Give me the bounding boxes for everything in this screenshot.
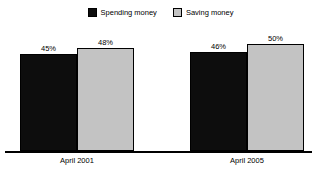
bar-value-spending-2005: 46% (190, 42, 247, 51)
bar-saving-2001 (77, 48, 134, 151)
category-label-april-2005: April 2005 (190, 156, 304, 166)
bar-spending-2005 (190, 52, 247, 151)
bar-wrap-spending-2001: 45% (20, 41, 77, 151)
bar-group-april-2005: 46% 50% (190, 41, 304, 151)
x-axis-line (5, 151, 312, 153)
bar-wrap-spending-2005: 46% (190, 41, 247, 151)
bar-wrap-saving-2001: 48% (77, 41, 134, 151)
bar-value-saving-2001: 48% (77, 38, 134, 47)
bar-chart: Spending money Saving money 45% 48% 46% (0, 0, 321, 174)
bar-group-april-2001: 45% 48% (20, 41, 134, 151)
bar-value-saving-2005: 50% (247, 34, 304, 43)
plot-area: 45% 48% 46% 50% April 2001 April 2005 (0, 0, 321, 174)
bar-wrap-saving-2005: 50% (247, 41, 304, 151)
category-label-april-2001: April 2001 (20, 156, 134, 166)
bar-spending-2001 (20, 54, 77, 151)
bar-value-spending-2001: 45% (20, 44, 77, 53)
bar-saving-2005 (247, 44, 304, 151)
